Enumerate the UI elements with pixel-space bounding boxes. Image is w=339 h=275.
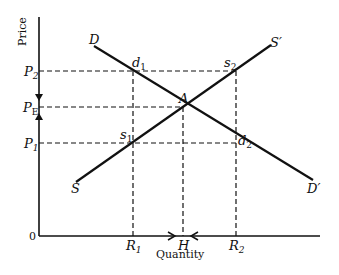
demand-end-label: D′ [306,181,320,196]
supply-start-label: S [71,181,80,196]
pe-label: PE [22,100,38,117]
p2-label: P2 [23,64,39,81]
h-label: H [177,238,190,253]
supply-demand-diagram: Price Quantity 0 P2 PE P1 R1 H R2 D D′ S… [0,0,339,275]
r2-label: R2 [228,238,245,255]
point-d2-label: d2 [238,133,252,150]
supply-curve [76,45,271,182]
point-s1-label: s1 [120,127,132,144]
demand-curve [94,46,313,180]
arrow-down-icon [35,94,43,101]
p1-label: P1 [23,136,38,153]
y-axis-label: Price [16,17,29,46]
r1-label: R1 [125,238,142,255]
origin-label: 0 [29,230,36,243]
point-d1-label: d1 [132,55,146,72]
supply-end-label: S′ [270,35,282,50]
demand-start-label: D [88,32,100,47]
point-s2-label: s2 [224,55,236,72]
point-a-label: A [178,91,188,106]
